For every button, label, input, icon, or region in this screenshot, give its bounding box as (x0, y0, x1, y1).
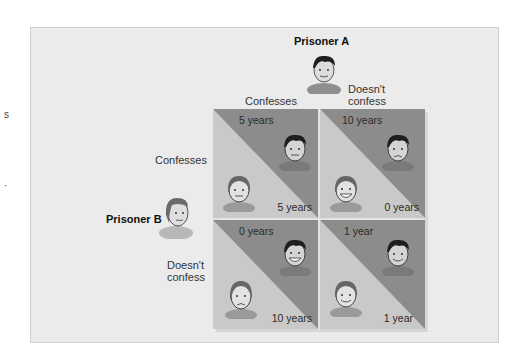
prisoner-a-happy-face-icon (277, 236, 313, 276)
prisoner-b-neutral-face-icon (221, 172, 257, 212)
prisoner-b-sentence: 10 years (272, 312, 312, 324)
prisoner-b-sentence: 5 years (278, 201, 312, 213)
prisoner-b-sentence: 0 years (385, 201, 419, 213)
payoff-cell-b-confesses-a-silent: 10 years 0 years (320, 109, 425, 218)
prisoner-a-sad-face-icon (380, 131, 416, 171)
prisoner-b-choice-doesnt-confess-line1: Doesn't (167, 259, 204, 271)
payoff-cell-a-confesses-b-silent: 0 years 10 years (213, 220, 318, 329)
prisoner-b-sentence: 1 year (384, 312, 413, 324)
prisoner-b-sad-face-icon (223, 277, 259, 319)
payoff-cell-both-confess: 5 years 5 years (213, 109, 318, 218)
margin-text-fragment: s (4, 109, 9, 120)
prisoner-b-label: Prisoner B (106, 213, 162, 225)
prisoner-b-happy-face-icon (328, 172, 364, 212)
payoff-matrix: 5 years 5 years 10 years (213, 109, 425, 329)
prisoner-b-choice-confesses: Confesses (155, 154, 207, 166)
prisoner-a-smile-face-icon (380, 236, 416, 276)
prisoner-b-choice-doesnt-confess-line2: confess (167, 271, 205, 283)
prisoner-a-label: Prisoner A (294, 35, 349, 47)
prisoner-a-choice-confesses: Confesses (245, 95, 297, 107)
prisoner-a-sentence: 0 years (239, 225, 273, 237)
prisoner-b-avatar-icon (157, 193, 195, 239)
prisoner-a-choice-doesnt-confess-line1: Doesn't (348, 83, 385, 95)
prisoner-a-sentence: 1 year (344, 225, 373, 237)
prisoner-a-sentence: 10 years (342, 114, 382, 126)
payoff-cell-neither-confess: 1 year 1 year (320, 220, 425, 329)
prisoner-a-avatar-icon (305, 52, 343, 94)
prisoner-b-smile-face-icon (328, 277, 364, 317)
margin-text-fragment: · (4, 180, 7, 191)
prisoner-a-neutral-face-icon (277, 131, 313, 171)
prisoner-a-choice-doesnt-confess-line2: confess (348, 95, 386, 107)
prisoner-a-sentence: 5 years (239, 114, 273, 126)
